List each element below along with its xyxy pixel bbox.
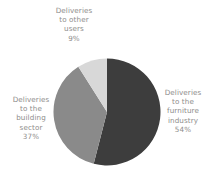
pie-label-furniture-percent: 54%: [157, 125, 209, 134]
pie-chart-graphic: [53, 58, 161, 166]
pie-label-building-line-4: sector: [2, 123, 60, 132]
pie-label-building-sector: Deliveries to the building sector 37%: [2, 95, 60, 141]
pie-label-other-percent: 9%: [38, 34, 110, 43]
pie-label-other-line-3: users: [38, 24, 110, 33]
pie-label-furniture-industry: Deliveries to the furniture industry 54%: [157, 88, 209, 134]
pie-label-building-percent: 37%: [2, 132, 60, 141]
pie-chart-figure: Deliveries to other users 9% Deliveries …: [0, 0, 211, 181]
pie-label-building-line-2: to the: [2, 104, 60, 113]
pie-label-furniture-line-3: furniture: [157, 106, 209, 115]
pie-label-furniture-line-1: Deliveries: [157, 88, 209, 97]
pie-label-building-line-3: building: [2, 113, 60, 122]
pie-label-other-line-1: Deliveries: [38, 6, 110, 15]
pie-label-building-line-1: Deliveries: [2, 95, 60, 104]
pie-label-furniture-line-4: industry: [157, 116, 209, 125]
pie-label-other-users: Deliveries to other users 9%: [38, 6, 110, 43]
pie-label-other-line-2: to other: [38, 15, 110, 24]
pie-label-furniture-line-2: to the: [157, 97, 209, 106]
